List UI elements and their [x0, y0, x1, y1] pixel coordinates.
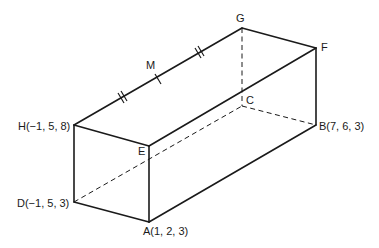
- edge-hg: [74, 28, 242, 125]
- label-a: A(1, 2, 3): [143, 225, 188, 237]
- label-e: E: [138, 145, 145, 157]
- label-c: C: [246, 94, 254, 106]
- label-h: H(−1, 5, 8): [18, 120, 70, 132]
- edge-cb-hidden: [242, 106, 316, 125]
- edge-gf: [242, 28, 316, 48]
- edge-he: [74, 125, 149, 146]
- label-d: D(−1, 5, 3): [17, 197, 69, 209]
- cuboid-diagram: G F M C B(7, 6, 3) H(−1, 5, 8) E D(−1, 5…: [0, 0, 379, 248]
- label-m: M: [146, 59, 155, 71]
- label-g: G: [236, 12, 245, 24]
- edge-dc-hidden: [74, 106, 242, 202]
- label-f: F: [321, 41, 328, 53]
- edge-ab: [149, 125, 316, 222]
- label-b: B(7, 6, 3): [319, 120, 364, 132]
- edge-ef: [149, 48, 316, 146]
- edge-da: [74, 202, 149, 222]
